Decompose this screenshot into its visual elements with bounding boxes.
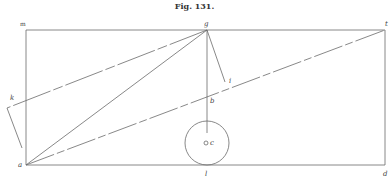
label-i: i <box>229 77 231 85</box>
line-g-i <box>207 30 225 82</box>
label-k: k <box>10 94 14 102</box>
label-a: a <box>18 161 22 169</box>
label-m: m <box>20 20 26 27</box>
label-d: d <box>383 170 388 178</box>
label-l: l <box>205 170 207 178</box>
label-c: c <box>210 139 214 147</box>
geometric-diagram: m g t k i b c a d l <box>0 0 389 185</box>
line-k-a <box>7 108 22 148</box>
center-c <box>204 141 208 145</box>
line-g-k <box>7 30 207 108</box>
label-t: t <box>385 20 388 28</box>
label-b: b <box>210 97 215 105</box>
label-g: g <box>204 20 209 28</box>
line-g-a <box>26 30 207 165</box>
